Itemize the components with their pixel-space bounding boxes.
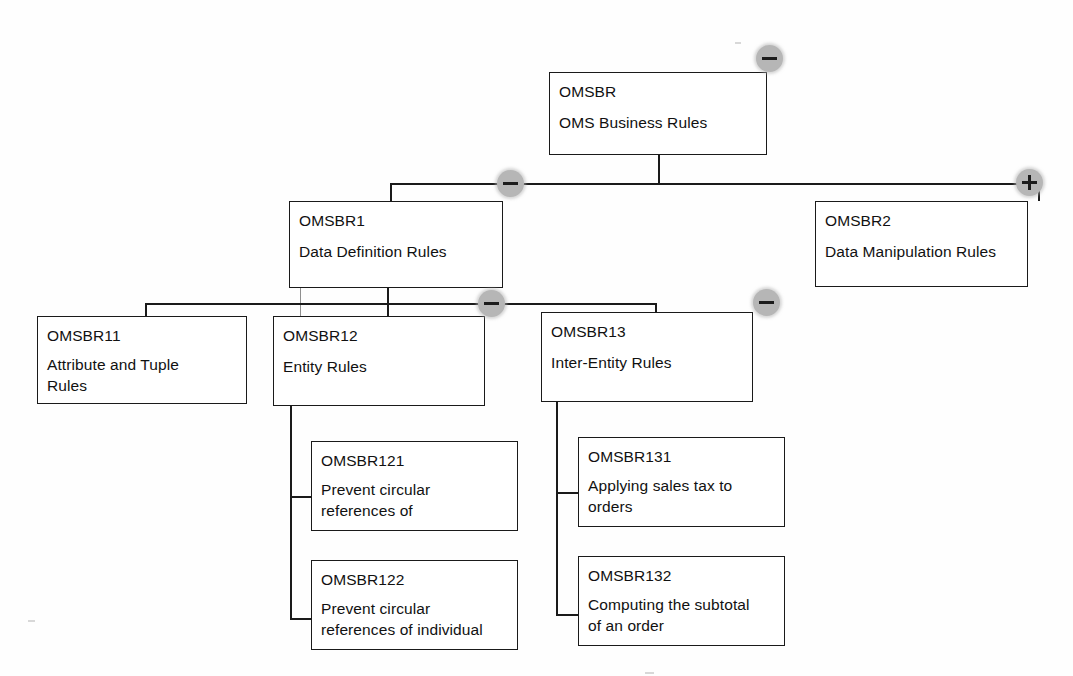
node-omsbr1[interactable]: OMSBR1 Data Definition Rules xyxy=(289,201,503,288)
minus-icon-toggle-omsbr[interactable] xyxy=(756,45,783,72)
node-desc-line: Inter-Entity Rules xyxy=(551,353,752,373)
connector-to-omsbr11 xyxy=(145,303,147,316)
node-description: Prevent circular references of xyxy=(321,480,517,521)
node-desc-line: references of xyxy=(321,501,517,521)
node-description: Entity Rules xyxy=(283,357,484,377)
node-desc-line: Prevent circular xyxy=(321,599,517,619)
scan-speck xyxy=(735,42,741,44)
connector-to-omsbr12 xyxy=(387,303,389,316)
node-desc-line: Data Definition Rules xyxy=(299,242,502,262)
scan-speck xyxy=(645,672,654,674)
node-description: Prevent circular references of individua… xyxy=(321,599,517,640)
plus-icon-toggle-omsbr2[interactable] xyxy=(1016,169,1043,196)
connector-omsbr13-spine xyxy=(556,402,558,616)
connector-omsbr13-to-omsbr132 xyxy=(556,614,578,616)
node-desc-line: orders xyxy=(588,497,784,517)
node-description: Inter-Entity Rules xyxy=(551,353,752,373)
node-omsbr13[interactable]: OMSBR13 Inter-Entity Rules xyxy=(541,312,753,402)
connector-root-stem xyxy=(658,155,660,184)
node-omsbr121[interactable]: OMSBR121 Prevent circular references of xyxy=(311,441,518,531)
node-omsbr2[interactable]: OMSBR2 Data Manipulation Rules xyxy=(815,201,1028,287)
node-code: OMSBR2 xyxy=(825,211,1027,230)
node-desc-line: Computing the subtotal xyxy=(588,595,784,615)
node-desc-line: references of individual xyxy=(321,620,517,640)
minus-icon-toggle-omsbr12[interactable] xyxy=(478,290,505,317)
node-description: Applying sales tax to orders xyxy=(588,476,784,517)
diagram-canvas: OMSBR OMS Business Rules OMSBR1 Data Def… xyxy=(0,0,1073,676)
node-desc-line: Prevent circular xyxy=(321,480,517,500)
node-description: Data Manipulation Rules xyxy=(825,242,1027,262)
connector-omsbr12-to-omsbr121 xyxy=(290,496,312,498)
node-omsbr122[interactable]: OMSBR122 Prevent circular references of … xyxy=(311,560,518,650)
connector-omsbr12-to-omsbr122 xyxy=(290,618,312,620)
minus-icon-toggle-omsbr1[interactable] xyxy=(497,170,524,197)
node-omsbr11[interactable]: OMSBR11 Attribute and Tuple Rules xyxy=(37,316,247,404)
node-description: OMS Business Rules xyxy=(559,113,766,133)
node-omsbr132[interactable]: OMSBR132 Computing the subtotal of an or… xyxy=(578,556,785,646)
node-desc-line: of an order xyxy=(588,616,784,636)
node-desc-line: Rules xyxy=(47,376,246,396)
node-code: OMSBR12 xyxy=(283,326,484,345)
node-omsbr[interactable]: OMSBR OMS Business Rules xyxy=(549,72,767,155)
node-code: OMSBR131 xyxy=(588,447,784,466)
node-desc-line: Applying sales tax to xyxy=(588,476,784,496)
connector-level2-bar xyxy=(145,303,656,305)
connector-to-omsbr1 xyxy=(390,183,392,201)
node-code: OMSBR11 xyxy=(47,326,246,345)
connector-omsbr1-stem xyxy=(387,288,389,303)
node-description: Attribute and Tuple Rules xyxy=(47,355,246,396)
node-code: OMSBR121 xyxy=(321,451,517,470)
node-code: OMSBR132 xyxy=(588,566,784,585)
scan-speck xyxy=(28,620,35,622)
node-desc-line: Attribute and Tuple xyxy=(47,355,246,375)
node-description: Data Definition Rules xyxy=(299,242,502,262)
node-description: Computing the subtotal of an order xyxy=(588,595,784,636)
node-desc-line: Data Manipulation Rules xyxy=(825,242,1027,262)
node-code: OMSBR13 xyxy=(551,322,752,341)
minus-icon-toggle-omsbr13[interactable] xyxy=(753,289,780,316)
node-desc-line: Entity Rules xyxy=(283,357,484,377)
node-code: OMSBR xyxy=(559,82,766,101)
node-omsbr131[interactable]: OMSBR131 Applying sales tax to orders xyxy=(578,437,785,527)
node-code: OMSBR122 xyxy=(321,570,517,589)
node-desc-line: OMS Business Rules xyxy=(559,113,766,133)
connector-omsbr13-to-omsbr131 xyxy=(556,492,578,494)
connector-omsbr12-spine xyxy=(290,406,292,620)
connector-level1-bar xyxy=(390,183,1039,185)
node-code: OMSBR1 xyxy=(299,211,502,230)
node-omsbr12[interactable]: OMSBR12 Entity Rules xyxy=(273,316,485,406)
